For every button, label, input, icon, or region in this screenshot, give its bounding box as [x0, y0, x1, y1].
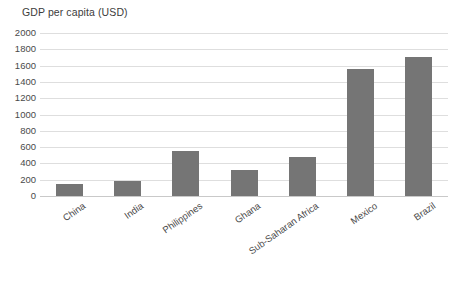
- bar: [289, 157, 316, 196]
- y-axis-tick-labels: 0200400600800100012001400160018002000: [0, 33, 36, 196]
- y-tick-label: 1200: [2, 93, 36, 103]
- bar-chart: GDP per capita (USD) 0200400600800100012…: [0, 0, 453, 284]
- gridline: [40, 82, 448, 83]
- plot-area: [40, 33, 448, 196]
- x-tick-label: Mexico: [348, 200, 379, 226]
- x-axis-tick-labels: ChinaIndiaPhilippinesGhanaSub-Saharan Af…: [40, 196, 448, 284]
- y-tick-label: 0: [2, 191, 36, 201]
- x-tick-label: China: [61, 200, 88, 223]
- y-tick-label: 600: [2, 142, 36, 152]
- x-tick-label: Philippines: [160, 200, 204, 235]
- bar: [231, 170, 258, 196]
- x-tick-label: India: [123, 200, 146, 221]
- y-tick-label: 1400: [2, 77, 36, 87]
- x-tick-label-wrapper: Mexico: [348, 200, 379, 226]
- gridline: [40, 163, 448, 164]
- bar: [347, 69, 374, 196]
- y-tick-label: 2000: [2, 28, 36, 38]
- gridline: [40, 98, 448, 99]
- y-tick-label: 800: [2, 126, 36, 136]
- gridline: [40, 49, 448, 50]
- y-tick-label: 1800: [2, 44, 36, 54]
- bar: [114, 181, 141, 196]
- x-tick-label-wrapper: India: [123, 200, 146, 221]
- x-tick-label-wrapper: China: [61, 200, 88, 223]
- y-tick-label: 1600: [2, 61, 36, 71]
- chart-title: GDP per capita (USD): [22, 6, 128, 18]
- gridline: [40, 115, 448, 116]
- y-tick-label: 400: [2, 158, 36, 168]
- gridline: [40, 131, 448, 132]
- gridline: [40, 147, 448, 148]
- y-tick-label: 200: [2, 175, 36, 185]
- bar: [405, 57, 432, 196]
- x-tick-label-wrapper: Ghana: [233, 200, 263, 225]
- y-tick-label: 1000: [2, 110, 36, 120]
- x-tick-label: Brazil: [411, 200, 437, 223]
- x-tick-label: Ghana: [233, 200, 263, 225]
- bar: [56, 184, 83, 196]
- x-tick-label-wrapper: Brazil: [411, 200, 437, 223]
- x-tick-label-wrapper: Philippines: [160, 200, 204, 235]
- bar: [172, 151, 199, 196]
- gridline: [40, 33, 448, 34]
- gridline: [40, 66, 448, 67]
